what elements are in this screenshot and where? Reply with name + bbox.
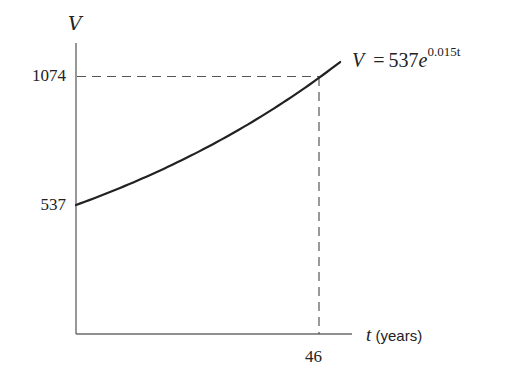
equation-equals: = bbox=[373, 49, 384, 71]
equation-exponent: 0.015t bbox=[427, 44, 460, 59]
y-tick-label-1074: 1074 bbox=[16, 66, 66, 86]
equation-lhs: V bbox=[352, 49, 364, 71]
x-tick-label-46: 46 bbox=[305, 347, 322, 367]
x-axis-variable: t bbox=[366, 324, 371, 345]
exponential-curve bbox=[76, 62, 340, 205]
equation-label: V =537e0.015t bbox=[352, 47, 460, 72]
x-axis-label: t (years) bbox=[366, 324, 422, 346]
equation-coef: 537 bbox=[389, 49, 419, 71]
y-axis-label: V bbox=[68, 12, 82, 34]
y-tick-label-537: 537 bbox=[16, 195, 66, 215]
x-axis-unit: (years) bbox=[376, 327, 423, 344]
